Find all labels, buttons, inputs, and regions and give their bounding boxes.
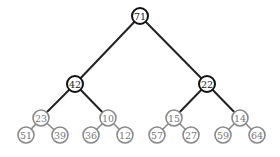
tree-node: 15 <box>166 110 182 126</box>
tree-node: 10 <box>100 110 116 126</box>
tree-node: 64 <box>249 127 265 143</box>
tree-edges <box>26 16 257 135</box>
tree-node: 39 <box>52 127 68 143</box>
node-value: 64 <box>251 130 263 141</box>
tree-nodes: 714222231015145139361257275964 <box>18 8 265 143</box>
node-value: 57 <box>151 130 163 141</box>
node-value: 12 <box>119 130 131 141</box>
tree-node: 23 <box>33 110 49 126</box>
node-value: 42 <box>69 79 81 90</box>
tree-node: 59 <box>215 127 231 143</box>
tree-node: 51 <box>18 127 34 143</box>
node-value: 22 <box>201 79 213 90</box>
node-value: 23 <box>35 113 47 124</box>
tree-node: 36 <box>83 127 99 143</box>
tree-node: 42 <box>67 76 83 92</box>
node-value: 39 <box>54 130 66 141</box>
tree-edge <box>140 16 207 84</box>
node-value: 36 <box>85 130 97 141</box>
tree-node: 12 <box>117 127 133 143</box>
tree-node: 14 <box>232 110 248 126</box>
tree-node: 71 <box>132 8 148 24</box>
tree-node: 27 <box>183 127 199 143</box>
node-value: 27 <box>185 130 197 141</box>
node-value: 59 <box>217 130 229 141</box>
tree-edge <box>75 16 140 84</box>
node-value: 71 <box>134 11 146 22</box>
node-value: 15 <box>168 113 180 124</box>
tree-node: 57 <box>149 127 165 143</box>
node-value: 14 <box>234 113 246 124</box>
tree-node: 22 <box>199 76 215 92</box>
node-value: 51 <box>20 130 32 141</box>
binary-tree-diagram: 714222231015145139361257275964 <box>0 0 280 157</box>
node-value: 10 <box>102 113 114 124</box>
